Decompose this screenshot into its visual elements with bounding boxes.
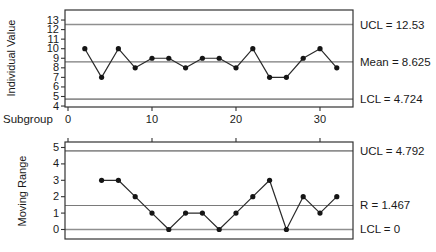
- individuals-lcl-label: LCL = 4.724: [360, 92, 423, 106]
- individuals-chart-data-point-marker: [233, 65, 238, 70]
- individuals-chart-data-point-marker: [82, 46, 87, 51]
- individuals-chart-data-point-marker: [334, 65, 339, 70]
- moving-range-chart-data-point-marker: [99, 178, 104, 183]
- mr-rbar-label: R = 1.467: [360, 198, 410, 212]
- moving-range-chart-panel: [61, 138, 353, 239]
- individuals-mean-label: Mean = 8.625: [360, 55, 431, 69]
- subgroup-axis-title: Subgroup: [3, 113, 53, 126]
- individuals-chart-data-point-marker: [317, 46, 322, 51]
- moving-range-chart-data-point-marker: [284, 227, 289, 232]
- imr-control-chart-figure: Individual Value Moving Range Subgroup U…: [0, 0, 436, 252]
- individuals-chart-data-point-marker: [250, 46, 255, 51]
- moving-range-chart-ytick-label: 5: [31, 141, 59, 154]
- individuals-chart-data-point-marker: [116, 46, 121, 51]
- individuals-chart-data-point-marker: [284, 75, 289, 80]
- individuals-chart-data-point-marker: [217, 56, 222, 61]
- individuals-chart-ytick-label: 13: [31, 14, 59, 27]
- moving-range-chart-data-point-marker: [149, 210, 154, 215]
- moving-range-chart-data-point-marker: [217, 227, 222, 232]
- moving-range-chart-data-point-marker: [166, 227, 171, 232]
- moving-range-chart-data-point-marker: [133, 194, 138, 199]
- individuals-ucl-label: UCL = 12.53: [360, 18, 424, 32]
- moving-range-chart-frame: [65, 142, 353, 239]
- moving-range-chart-data-point-marker: [250, 194, 255, 199]
- moving-range-chart-ytick-label: 0: [31, 223, 59, 236]
- moving-range-chart-ytick-label: 2: [31, 190, 59, 203]
- moving-range-axis-title: Moving Range: [15, 131, 29, 251]
- individuals-chart-data-point-marker: [301, 56, 306, 61]
- moving-range-chart-data-point-marker: [317, 210, 322, 215]
- individuals-chart-data-point-marker: [183, 65, 188, 70]
- individuals-chart-data-point-marker: [166, 56, 171, 61]
- individuals-chart-data-point-marker: [200, 56, 205, 61]
- moving-range-chart-data-point-marker: [233, 210, 238, 215]
- moving-range-chart-data-point-marker: [183, 210, 188, 215]
- mr-lcl-label: LCL = 0: [360, 222, 400, 236]
- individuals-axis-title: Individual Value: [4, 0, 18, 118]
- control-chart-canvas: [0, 0, 436, 252]
- mr-ucl-label: UCL = 4.792: [360, 144, 424, 158]
- moving-range-chart-data-point-marker: [200, 210, 205, 215]
- individuals-chart-series-line: [85, 49, 337, 78]
- individuals-chart-data-point-marker: [99, 75, 104, 80]
- individuals-chart-data-point-marker: [133, 65, 138, 70]
- moving-range-chart-ytick-label: 3: [31, 174, 59, 187]
- individuals-chart-xtick-label: 20: [223, 113, 249, 126]
- moving-range-chart-ytick-label: 1: [31, 207, 59, 220]
- individuals-chart-data-point-marker: [149, 56, 154, 61]
- individuals-chart-panel: [61, 10, 353, 111]
- individuals-chart-xtick-label: 0: [55, 113, 81, 126]
- moving-range-chart-ytick-label: 4: [31, 157, 59, 170]
- moving-range-chart-data-point-marker: [267, 178, 272, 183]
- moving-range-chart-data-point-marker: [301, 194, 306, 199]
- individuals-chart-data-point-marker: [267, 75, 272, 80]
- moving-range-chart-data-point-marker: [334, 194, 339, 199]
- moving-range-chart-data-point-marker: [116, 178, 121, 183]
- individuals-chart-xtick-label: 30: [307, 113, 333, 126]
- individuals-chart-xtick-label: 10: [139, 113, 165, 126]
